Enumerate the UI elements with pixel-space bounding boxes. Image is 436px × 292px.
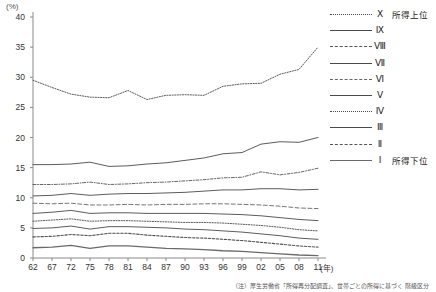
legend-item-3[interactable]: Ⅷ	[330, 38, 436, 54]
legend-roman-numeral: Ⅸ	[372, 25, 388, 35]
series-line-8	[33, 226, 318, 239]
legend-item-4[interactable]: Ⅶ	[330, 55, 436, 71]
legend-item-9[interactable]: Ⅱ	[330, 136, 436, 152]
legend-item-1[interactable]: Ⅹ所得上位	[330, 6, 436, 22]
legend-line-swatch	[330, 106, 372, 116]
legend-roman-numeral: Ⅴ	[372, 90, 388, 100]
legend-item-6[interactable]: Ⅴ	[330, 87, 436, 103]
legend-roman-numeral: Ⅹ	[372, 9, 388, 19]
legend-roman-numeral: Ⅲ	[372, 122, 388, 132]
legend-line-swatch	[330, 58, 372, 68]
legend-roman-numeral: Ⅵ	[372, 74, 388, 84]
series-line-2	[33, 138, 318, 167]
legend-line-swatch	[330, 139, 372, 149]
legend-line-swatch	[330, 74, 372, 84]
chart-root: (%) 0510152025303540 6267727578818487909…	[0, 0, 436, 292]
legend-line-swatch	[330, 25, 372, 35]
legend-item-7[interactable]: Ⅳ	[330, 103, 436, 119]
legend-roman-numeral: Ⅷ	[372, 41, 388, 51]
legend-item-5[interactable]: Ⅵ	[330, 71, 436, 87]
chart-footnote: （注）厚生労働省「所得再分配調査」、世帯ごとの所得に基づく 階級区分	[232, 281, 429, 290]
series-line-10	[33, 245, 318, 255]
legend-line-swatch	[330, 90, 372, 100]
series-line-5	[33, 203, 318, 208]
legend-line-swatch	[330, 122, 372, 132]
legend-roman-numeral: Ⅳ	[372, 106, 388, 116]
series-line-1	[33, 47, 318, 99]
legend-note-label: 所得下位	[392, 154, 428, 166]
legend-item-2[interactable]: Ⅸ	[330, 22, 436, 38]
series-line-4	[33, 189, 318, 196]
legend-line-swatch	[330, 41, 372, 51]
chart-legend: Ⅹ所得上位ⅨⅧⅦⅥⅤⅣⅢⅡⅠ所得下位	[330, 6, 436, 168]
legend-roman-numeral: Ⅶ	[372, 58, 388, 68]
legend-line-swatch	[330, 9, 372, 19]
legend-item-8[interactable]: Ⅲ	[330, 119, 436, 135]
series-line-7	[33, 219, 318, 231]
legend-note-label: 所得上位	[392, 8, 428, 20]
legend-roman-numeral: Ⅰ	[372, 155, 388, 165]
legend-line-swatch	[330, 155, 372, 165]
legend-roman-numeral: Ⅱ	[372, 139, 388, 149]
series-line-3	[33, 168, 318, 184]
legend-item-10[interactable]: Ⅰ所得下位	[330, 152, 436, 168]
